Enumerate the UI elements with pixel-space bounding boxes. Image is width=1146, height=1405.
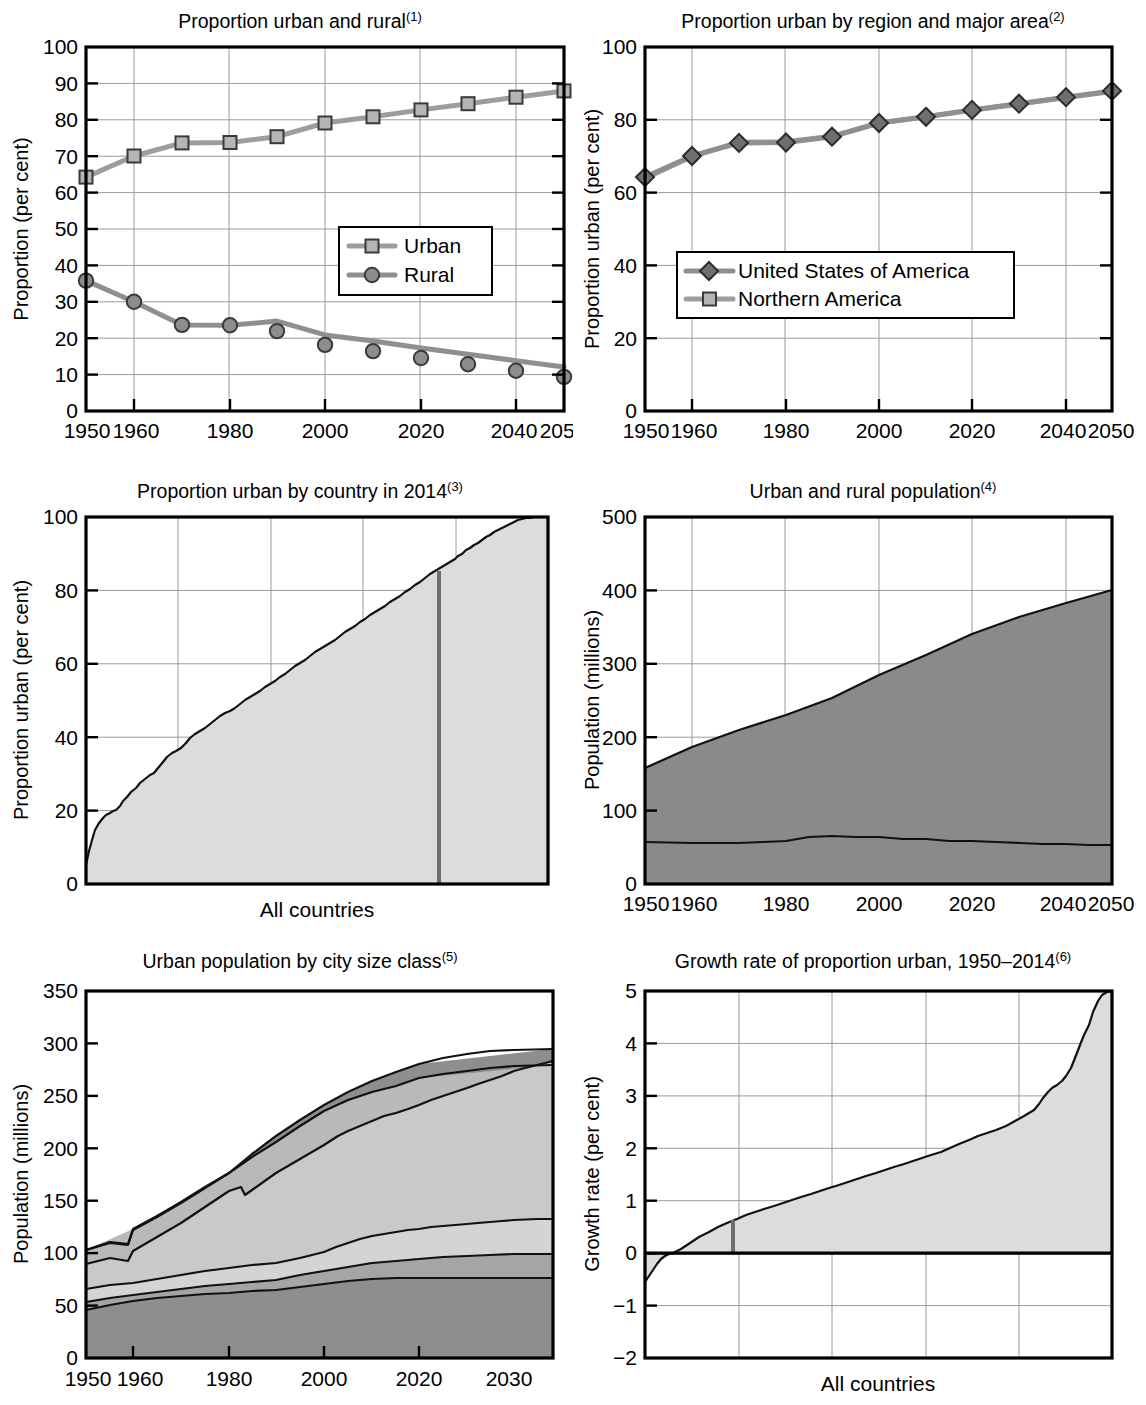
- svg-text:4: 4: [625, 1032, 637, 1055]
- svg-text:80: 80: [55, 579, 78, 602]
- svg-text:40: 40: [55, 726, 78, 749]
- panel2-title: Proportion urban by region and major are…: [681, 9, 1064, 32]
- svg-text:2: 2: [625, 1137, 637, 1160]
- svg-text:1: 1: [625, 1189, 637, 1212]
- panel5-y-ticklabels: 0 50 100 150 200 250 300 350: [43, 979, 78, 1369]
- svg-text:2030: 2030: [486, 1367, 533, 1390]
- panel3-title: Proportion urban by country in 2014(3): [137, 479, 463, 502]
- panel1-title: Proportion urban and rural(1): [178, 9, 422, 32]
- svg-text:1980: 1980: [763, 419, 810, 442]
- svg-text:90: 90: [55, 72, 78, 95]
- panel6-xlabel: All countries: [821, 1372, 935, 1395]
- svg-text:1950: 1950: [64, 419, 111, 442]
- svg-text:60: 60: [55, 181, 78, 204]
- svg-text:50: 50: [55, 1294, 78, 1317]
- svg-text:1980: 1980: [206, 1367, 253, 1390]
- svg-text:0: 0: [625, 1241, 637, 1264]
- panel1-y-ticklabels: 0 10 20 30 40 50 60 70 80 90 100: [43, 35, 78, 422]
- panel3-xlabel: All countries: [260, 898, 374, 921]
- panel6-area: [645, 991, 1112, 1282]
- panel3-y-ticklabels: 0 20 40 60 80 100: [43, 505, 78, 895]
- panel4-title: Urban and rural population(4): [750, 479, 997, 502]
- svg-text:2050: 2050: [540, 419, 573, 442]
- panel3-tickmarks: [86, 590, 98, 810]
- panel3-ylabel: Proportion urban (per cent): [10, 580, 32, 820]
- panel1-legend: Urban Rural: [339, 227, 492, 295]
- panel1-ylabel: Proportion (per cent): [10, 137, 32, 320]
- svg-text:2000: 2000: [302, 419, 349, 442]
- panel1-legend-label-urban: Urban: [404, 234, 461, 257]
- svg-text:1960: 1960: [113, 419, 160, 442]
- svg-text:2040: 2040: [491, 419, 538, 442]
- svg-text:200: 200: [43, 1137, 78, 1160]
- svg-text:500: 500: [602, 505, 637, 528]
- svg-text:1980: 1980: [763, 892, 810, 915]
- svg-text:−2: −2: [613, 1346, 637, 1369]
- svg-text:100: 100: [43, 35, 78, 58]
- panel2-legend-label-northern-america: Northern America: [738, 287, 902, 310]
- svg-text:2000: 2000: [856, 419, 903, 442]
- panel6-y-ticklabels: −2 −1 0 1 2 3 4 5: [613, 979, 637, 1369]
- svg-text:20: 20: [55, 799, 78, 822]
- svg-text:50: 50: [55, 217, 78, 240]
- svg-text:−1: −1: [613, 1294, 637, 1317]
- panel5-ylabel: Population (millions): [10, 1084, 32, 1264]
- svg-text:40: 40: [614, 254, 637, 277]
- figure-sheet: Proportion urban and rural(1): [0, 0, 1146, 1405]
- svg-text:80: 80: [55, 108, 78, 131]
- panel2-ylabel: Proportion urban (per cent): [581, 109, 603, 349]
- panel4-x-ticklabels: 1950 1960 1980 2000 2020 2040 2050: [623, 892, 1135, 915]
- svg-text:60: 60: [55, 652, 78, 675]
- svg-text:2040: 2040: [1040, 419, 1087, 442]
- panel-urban-and-rural-population: Urban and rural population(4): [573, 470, 1146, 940]
- svg-text:200: 200: [602, 726, 637, 749]
- svg-text:2000: 2000: [301, 1367, 348, 1390]
- panel2-legend-label-usa: United States of America: [738, 259, 969, 282]
- svg-text:2020: 2020: [949, 892, 996, 915]
- panel-urban-population-by-city-size: Urban population by city size class(5): [0, 940, 573, 1405]
- svg-text:2020: 2020: [398, 419, 445, 442]
- panel6-title: Growth rate of proportion urban, 1950–20…: [675, 949, 1071, 972]
- circle-marker-icon: [365, 268, 379, 282]
- svg-text:2050: 2050: [1088, 892, 1135, 915]
- panel2-legend: United States of America Northern Americ…: [677, 252, 1014, 318]
- svg-text:30: 30: [55, 290, 78, 313]
- svg-text:300: 300: [43, 1032, 78, 1055]
- panel-growth-rate-of-proportion-urban: Growth rate of proportion urban, 1950–20…: [573, 940, 1146, 1405]
- svg-text:2020: 2020: [396, 1367, 443, 1390]
- svg-text:40: 40: [55, 254, 78, 277]
- svg-text:1960: 1960: [671, 892, 718, 915]
- svg-text:2000: 2000: [856, 892, 903, 915]
- svg-text:0: 0: [66, 872, 78, 895]
- panel2-x-ticklabels: 1950 1960 1980 2000 2020 2040 2050: [623, 419, 1135, 442]
- svg-text:250: 250: [43, 1084, 78, 1107]
- svg-text:1950: 1950: [623, 419, 670, 442]
- svg-text:5: 5: [625, 979, 637, 1002]
- svg-text:100: 100: [602, 799, 637, 822]
- svg-text:2050: 2050: [1088, 419, 1135, 442]
- panel6-ylabel: Growth rate (per cent): [581, 1076, 603, 1272]
- svg-text:1960: 1960: [671, 419, 718, 442]
- square-marker-icon: [703, 293, 716, 306]
- svg-text:1980: 1980: [207, 419, 254, 442]
- panel1-x-ticklabels: 1950 1960 1980 2000 2020 2040 2050: [64, 419, 573, 442]
- svg-text:20: 20: [614, 327, 637, 350]
- svg-text:300: 300: [602, 652, 637, 675]
- svg-text:100: 100: [602, 35, 637, 58]
- panel2-y-ticklabels: 0 20 40 60 80 100: [602, 35, 637, 422]
- svg-text:20: 20: [55, 327, 78, 350]
- svg-text:100: 100: [43, 505, 78, 528]
- panel1-legend-label-rural: Rural: [404, 263, 454, 286]
- svg-text:400: 400: [602, 579, 637, 602]
- svg-text:3: 3: [625, 1084, 637, 1107]
- square-marker-icon: [366, 240, 379, 253]
- panel5-x-ticklabels: 1950 1960 1980 2000 2020 2030: [65, 1367, 533, 1390]
- panel4-y-ticklabels: 0 100 200 300 400 500: [602, 505, 637, 895]
- svg-text:60: 60: [614, 181, 637, 204]
- svg-text:1960: 1960: [117, 1367, 164, 1390]
- svg-text:80: 80: [614, 108, 637, 131]
- svg-text:350: 350: [43, 979, 78, 1002]
- panel3-area: [86, 517, 548, 884]
- svg-text:2020: 2020: [949, 419, 996, 442]
- panel-proportion-urban-and-rural: Proportion urban and rural(1): [0, 0, 573, 470]
